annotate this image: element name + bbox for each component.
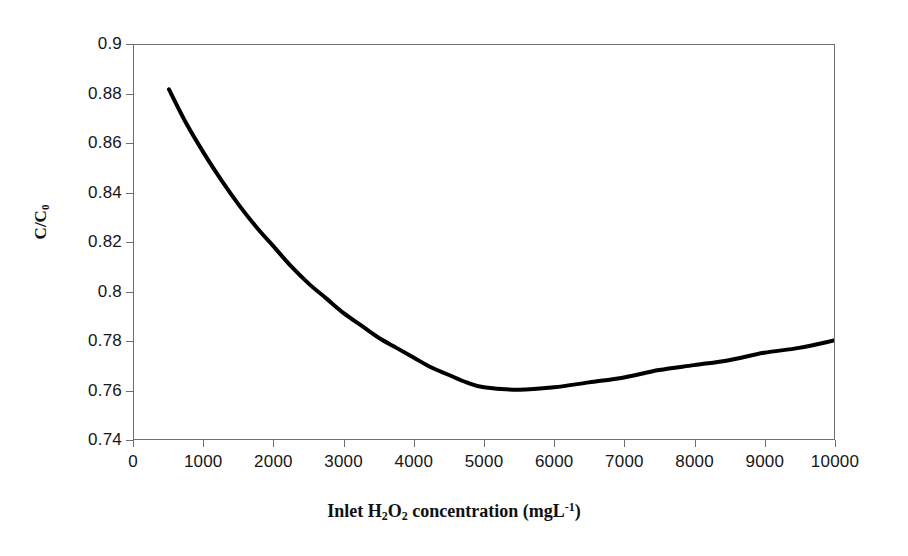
y-axis-tick-mark [126, 391, 133, 392]
y-axis-tick-mark [126, 94, 133, 95]
y-axis-tick-mark [126, 341, 133, 342]
x-axis-title: Inlet H2O2 concentration (mgL-1) [0, 500, 908, 524]
x-axis-tick-label: 2000 [254, 452, 293, 472]
x-axis-tick-label: 9000 [745, 452, 784, 472]
y-axis-tick-mark [126, 292, 133, 293]
x-axis-tick-labels: 0100020003000400050006000700080009000100… [133, 452, 835, 478]
x-axis-tick-mark [484, 440, 485, 447]
x-axis-tick-mark [554, 440, 555, 447]
x-axis-tick-mark [133, 440, 134, 447]
x-axis-tick-label: 8000 [675, 452, 714, 472]
x-axis-tick-mark [203, 440, 204, 447]
y-axis-tick-label: 0.82 [88, 232, 122, 252]
x-axis-title-tail: ) [575, 501, 581, 521]
y-axis-tick-label: 0.8 [98, 282, 122, 302]
curve-path [169, 89, 834, 389]
x-axis-tick-mark [273, 440, 274, 447]
chart-figure: 0.740.760.780.80.820.840.860.880.9 C/C0 … [0, 0, 908, 556]
x-axis-tick-label: 3000 [324, 452, 363, 472]
x-axis-title-superscript: -1 [565, 500, 575, 514]
y-axis-tick-mark [126, 440, 133, 441]
y-axis-tick-mark [126, 193, 133, 194]
y-axis-tick-label: 0.76 [88, 381, 122, 401]
y-axis-tick-label: 0.84 [88, 183, 122, 203]
x-axis-tick-label: 6000 [535, 452, 574, 472]
y-axis-tick-label: 0.74 [88, 430, 122, 450]
x-axis-tick-mark [695, 440, 696, 447]
x-axis-title-mid: O [388, 501, 402, 521]
plot-area [133, 44, 835, 440]
x-axis-title-post: concentration (mgL [408, 501, 565, 521]
y-axis-tick-label: 0.86 [88, 133, 122, 153]
x-axis-tick-label: 0 [128, 452, 138, 472]
y-axis-title: C/C0 [31, 177, 51, 267]
y-axis-tick-mark [126, 143, 133, 144]
y-axis-title-text: C/C [31, 210, 50, 239]
y-axis-tick-mark [126, 242, 133, 243]
x-axis-tick-label: 5000 [465, 452, 504, 472]
x-axis-tick-label: 10000 [811, 452, 859, 472]
y-axis-title-subscript: 0 [39, 205, 51, 211]
y-axis-tick-mark [126, 44, 133, 45]
x-axis-tick-label: 4000 [394, 452, 433, 472]
x-axis-tick-mark [835, 440, 836, 447]
y-axis-tick-label: 0.9 [98, 34, 122, 54]
x-axis-tick-label: 7000 [605, 452, 644, 472]
y-axis-tick-label: 0.88 [88, 84, 122, 104]
x-axis-tick-mark [414, 440, 415, 447]
x-axis-tick-mark [765, 440, 766, 447]
y-axis-tick-labels: 0.740.760.780.80.820.840.860.880.9 [40, 44, 122, 440]
x-axis-tick-mark [344, 440, 345, 447]
x-axis-tick-label: 1000 [184, 452, 223, 472]
y-axis-tick-label: 0.78 [88, 331, 122, 351]
x-axis-tick-mark [624, 440, 625, 447]
x-axis-title-pre: Inlet H [327, 501, 382, 521]
data-curve [134, 45, 834, 439]
